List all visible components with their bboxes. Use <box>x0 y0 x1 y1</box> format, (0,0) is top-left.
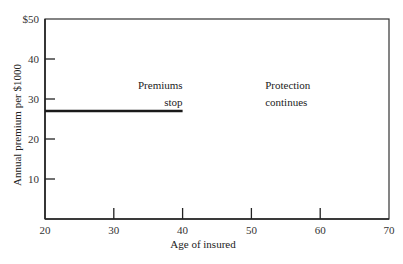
y-ticks: 10203040$50 <box>23 13 56 185</box>
x-tick-label: 70 <box>384 224 396 236</box>
annotation-text: continues <box>265 96 307 108</box>
annotation-text: Premiums <box>138 79 183 91</box>
y-tick-label: 10 <box>28 173 40 185</box>
y-tick-label: 20 <box>28 133 40 145</box>
annotations: PremiumsstopProtectioncontinues <box>138 79 311 108</box>
annotation-text: Protection <box>265 79 311 91</box>
x-tick-label: 50 <box>246 224 258 236</box>
y-tick-label: 30 <box>28 93 40 105</box>
plot-frame <box>45 19 389 219</box>
x-tick-label: 40 <box>177 224 189 236</box>
annotation-text: stop <box>164 96 183 108</box>
x-axis-label: Age of insured <box>170 238 236 250</box>
y-axis-label: Annual premium per $1000 <box>11 64 23 186</box>
x-ticks: 203040506070 <box>40 208 396 236</box>
chart: 10203040$50 203040506070 PremiumsstopPro… <box>0 0 403 264</box>
y-tick-label: 40 <box>28 53 40 65</box>
x-tick-label: 30 <box>108 224 120 236</box>
y-tick-label: $50 <box>23 13 40 25</box>
x-tick-label: 60 <box>315 224 327 236</box>
x-tick-label: 20 <box>40 224 52 236</box>
